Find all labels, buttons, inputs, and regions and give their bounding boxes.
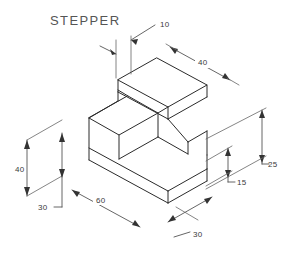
edge-plinth-top-front-left: [89, 148, 168, 191]
dim-label-25: 25: [268, 160, 278, 169]
edge-channel-floor-right: [158, 137, 188, 154]
ext-line-40-left-bottom: [27, 176, 62, 196]
ext-line-25-upper: [206, 108, 266, 139]
dim-label-40-left: 40: [15, 165, 25, 174]
arrow-60-end: [132, 220, 140, 227]
dim-label-15: 15: [237, 178, 247, 187]
edge-left-upright-rear-top-link: [89, 101, 118, 118]
stepper-solid-object: [89, 58, 207, 203]
arrow-40-left-top: [24, 140, 30, 149]
dim-label-60: 60: [96, 196, 106, 205]
arrow-30-left-top: [59, 133, 65, 142]
dim-label-30-left: 30: [38, 203, 48, 212]
edge-step-tread-left: [119, 137, 158, 159]
drawing-title: STEPPER: [50, 13, 120, 28]
ext-line-30-bottom-leader: [176, 207, 198, 220]
dim-label-10: 10: [160, 20, 170, 29]
arrow-30-left-bottom: [59, 169, 65, 178]
arrow-10-left: [110, 49, 116, 55]
edge-plinth-top-front-right: [168, 169, 207, 191]
isometric-drawing-svg: STEPPER: [0, 0, 298, 257]
edge-upper-slab-right-bottom: [168, 97, 207, 119]
dimension-40-left: 40: [15, 120, 62, 196]
dimension-60: 60: [72, 190, 140, 227]
dimension-30-left: 30: [38, 133, 65, 212]
edge-bottom-front-right: [168, 181, 207, 203]
dimension-25: 25: [206, 108, 278, 189]
edge-left-upright-to-slab-front: [158, 107, 168, 113]
edge-upper-slab-front-left-bottom: [118, 92, 168, 119]
dimension-30-bottom: 30: [168, 197, 212, 239]
edge-left-upright-top-face: [89, 96, 158, 135]
arrow-30-bottom-start: [168, 215, 176, 222]
arrow-60-start: [72, 190, 80, 197]
ext-line-40-left-top: [27, 120, 62, 140]
dimension-10: 10: [100, 20, 170, 78]
dim-label-30-bottom: 30: [193, 230, 203, 239]
arrow-10-right: [131, 39, 138, 45]
ext-line-25-lower: [206, 156, 266, 189]
dim-label-40-top: 40: [198, 58, 208, 67]
edge-right-step-to-slab: [168, 119, 188, 142]
dimension-40-top: 40: [166, 44, 239, 85]
edge-right-step-top-back: [188, 131, 207, 142]
ext-line-40-top-a: [166, 44, 178, 51]
dimension-15: 15: [206, 146, 247, 187]
ext-line-40-top-b: [227, 78, 239, 85]
arrow-30-bottom-end: [204, 197, 212, 204]
dim-leader-30-bottom: [174, 232, 190, 237]
dim-leader-10-right: [131, 25, 155, 40]
technical-drawing-canvas: STEPPER: [0, 0, 298, 257]
